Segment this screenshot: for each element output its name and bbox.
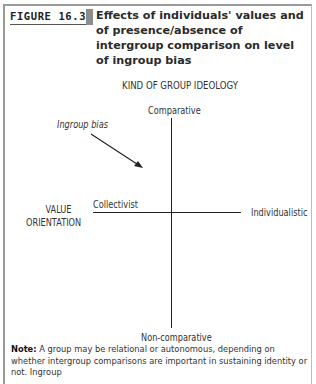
figure-title: Effects of individuals' values and of pr… [96,8,308,68]
vertical-axis [171,118,172,328]
value-orientation-line2: ORIENTATION [26,216,81,228]
figure-accent-bar [86,9,93,25]
arrow-icon [88,130,148,175]
horizontal-axis [93,212,241,213]
ingroup-bias-label: Ingroup bias [57,118,108,130]
collectivist-label: Collectivist [93,198,138,210]
vertical-top-label: Comparative [148,104,201,116]
top-heading: KIND OF GROUP IDEOLOGY [122,79,238,92]
figure-note: Note: A group may be relational or auton… [11,344,311,379]
figure-label: FIGURE 16.3 [10,9,86,25]
individualistic-label: Individualistic [251,206,307,218]
value-orientation-line1: VALUE [39,203,78,215]
note-text: A group may be relational or autonomous,… [11,344,307,377]
vertical-bottom-label: Non-comparative [141,331,212,343]
note-prefix: Note: [11,344,37,354]
